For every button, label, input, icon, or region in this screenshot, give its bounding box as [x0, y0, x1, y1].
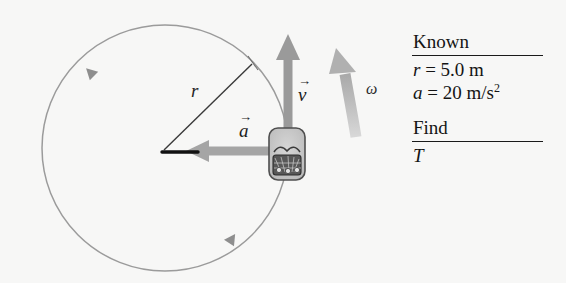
- radius-label: r: [191, 80, 198, 102]
- angular-velocity-arrowhead: [329, 48, 356, 74]
- known-row-acceleration: a = 20 m/s2: [412, 81, 552, 104]
- known-row-acceleration-value: = 20 m/s: [423, 82, 494, 103]
- known-rule: [412, 55, 543, 56]
- car-detail-dot-mid: [285, 168, 290, 173]
- circle-direction-arrowhead-top-left: [82, 64, 98, 80]
- known-heading: Known: [412, 30, 552, 54]
- find-row-period: T: [412, 144, 552, 167]
- angular-velocity-curve: [345, 74, 356, 137]
- angular-velocity-label: ω: [366, 80, 377, 98]
- known-row-radius: r = 5.0 m: [412, 58, 552, 81]
- known-row-radius-value: = 5.0 m: [420, 59, 484, 80]
- angular-velocity-arrow: [329, 48, 356, 137]
- known-row-acceleration-exponent: 2: [494, 81, 500, 95]
- find-rule: [412, 141, 543, 142]
- acceleration-label: → a: [239, 114, 251, 140]
- car-detail-dot-right: [294, 167, 299, 172]
- circle-direction-arrowhead-bottom-right: [224, 231, 240, 247]
- velocity-label: → v: [298, 78, 310, 104]
- find-heading: Find: [412, 114, 552, 140]
- diagram-canvas: → v → a r ω Known r = 5.0 m a = 20 m/s2 …: [0, 0, 566, 283]
- car-detail-dot-left: [276, 167, 281, 172]
- object-car: [269, 128, 305, 180]
- known-find-panel: Known r = 5.0 m a = 20 m/s2 Find T: [412, 30, 552, 167]
- acceleration-label-symbol: a: [239, 120, 249, 141]
- radius-circle-tick: [248, 56, 258, 70]
- velocity-label-symbol: v: [298, 84, 306, 105]
- known-row-acceleration-symbol: a: [413, 82, 423, 103]
- velocity-vector-arrowhead: [276, 34, 300, 60]
- panel-spacer: [412, 104, 552, 114]
